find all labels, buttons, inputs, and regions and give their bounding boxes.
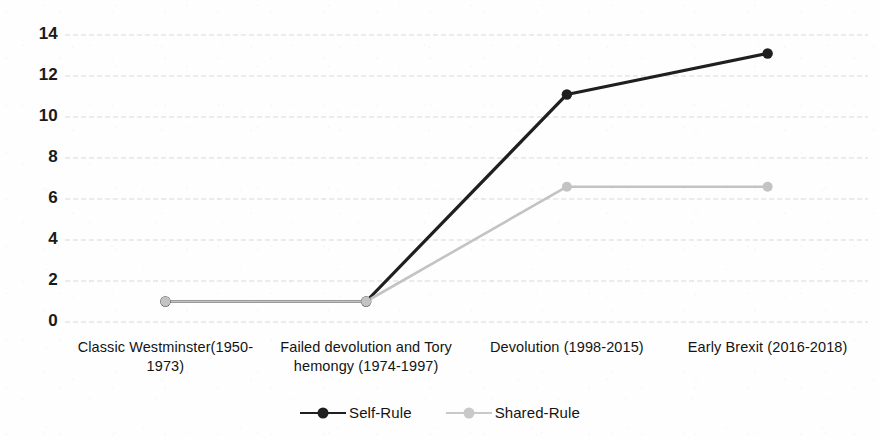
- x-tick-label-2: Devolution (1998-2015): [470, 338, 665, 357]
- x-tick-label-0: Classic Westminster(1950-1973): [68, 338, 263, 376]
- chart-legend: Self-Rule Shared-Rule: [0, 404, 880, 421]
- legend-label-self-rule: Self-Rule: [349, 404, 412, 421]
- data-point-shared-rule-3[interactable]: [763, 182, 773, 192]
- data-point-self-rule-2[interactable]: [562, 89, 572, 99]
- y-tick-label-12: 12: [18, 65, 58, 85]
- data-point-shared-rule-1[interactable]: [361, 297, 371, 307]
- x-tick-label-line2: hemongy (1974-1997): [269, 357, 464, 376]
- y-tick-label-6: 6: [18, 188, 58, 208]
- legend-label-shared-rule: Shared-Rule: [495, 404, 580, 421]
- data-point-self-rule-3[interactable]: [762, 48, 772, 58]
- x-tick-label-line1: Early Brexit (2016-2018): [670, 338, 865, 357]
- x-tick-label-1: Failed devolution and Toryhemongy (1974-…: [269, 338, 464, 376]
- legend-swatch-shared-rule: [446, 406, 492, 420]
- x-tick-label-line1: Classic Westminster(1950-: [68, 338, 263, 357]
- y-tick-label-2: 2: [18, 270, 58, 290]
- legend-item-self-rule[interactable]: Self-Rule: [300, 404, 412, 421]
- legend-item-shared-rule[interactable]: Shared-Rule: [446, 404, 580, 421]
- series-marker-group: [160, 48, 773, 306]
- line-chart: 14121086420 Classic Westminster(1950-197…: [0, 0, 880, 440]
- data-point-shared-rule-2[interactable]: [562, 182, 572, 192]
- y-tick-label-10: 10: [18, 106, 58, 126]
- series-line-group: [165, 53, 767, 301]
- series-line-self-rule: [165, 53, 767, 301]
- y-tick-label-8: 8: [18, 147, 58, 167]
- series-line-shared-rule: [165, 187, 767, 302]
- legend-swatch-self-rule: [300, 406, 346, 420]
- y-tick-label-0: 0: [18, 311, 58, 331]
- gridline-group: [65, 35, 868, 322]
- x-tick-label-line1: Failed devolution and Tory: [269, 338, 464, 357]
- data-point-shared-rule-0[interactable]: [160, 297, 170, 307]
- x-tick-label-line1: Devolution (1998-2015): [470, 338, 665, 357]
- x-tick-label-line2: 1973): [68, 357, 263, 376]
- x-tick-label-3: Early Brexit (2016-2018): [670, 338, 865, 357]
- y-tick-label-14: 14: [18, 24, 58, 44]
- y-tick-label-4: 4: [18, 229, 58, 249]
